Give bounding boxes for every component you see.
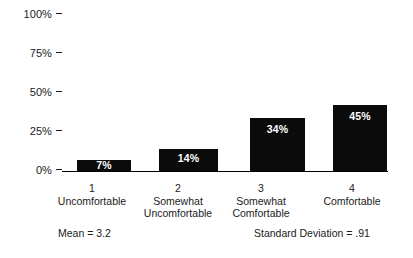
y-axis-tick-label: 0% <box>36 164 52 176</box>
plot-area: 7% 14% 34% 45% <box>62 0 392 180</box>
x-axis-category-number: 3 <box>223 182 299 195</box>
bar-value-label-2: 14% <box>159 152 218 164</box>
y-axis-tick-label: 50% <box>30 86 52 98</box>
bar-2[interactable]: 14% <box>159 149 218 171</box>
y-axis-tick-label: 75% <box>30 47 52 59</box>
bar-column-1[interactable]: 7% <box>77 160 131 171</box>
x-axis-baseline <box>62 171 388 173</box>
bar-value-label-3: 34% <box>250 123 305 135</box>
x-axis-category-number: 4 <box>311 182 393 195</box>
bar-3[interactable]: 34% <box>250 118 305 171</box>
x-axis-category-4: 4 Comfortable <box>311 182 393 207</box>
x-axis-category-text: Uncomfortable <box>49 195 135 208</box>
y-axis-tick-label: 25% <box>30 125 52 137</box>
y-axis-tick-50: 50% <box>30 85 62 98</box>
x-axis-category-number: 2 <box>139 182 217 195</box>
x-axis-category-text: Somewhat Uncomfortable <box>139 195 217 220</box>
x-axis-category-2: 2 Somewhat Uncomfortable <box>139 182 217 220</box>
x-axis-category-3: 3 Somewhat Comfortable <box>223 182 299 220</box>
y-axis-tick-0: 0% <box>36 163 62 176</box>
bar-value-label-1: 7% <box>77 159 131 171</box>
y-axis-tick-25: 25% <box>30 124 62 137</box>
bar-column-4[interactable]: 45% <box>333 105 387 171</box>
bar-column-2[interactable]: 14% <box>159 149 218 171</box>
x-axis-category-text: Comfortable <box>311 195 393 208</box>
y-axis-tick-label: 100% <box>23 8 52 20</box>
bar-value-label-4: 45% <box>333 110 387 122</box>
x-axis-category-text: Somewhat Comfortable <box>223 195 299 220</box>
y-axis-tick-75: 75% <box>30 46 62 59</box>
bar-chart: 100% 75% 50% 25% 0% 7% 14% <box>0 0 413 258</box>
y-axis: 100% 75% 50% 25% 0% <box>0 0 62 180</box>
x-axis-category-1: 1 Uncomfortable <box>49 182 135 207</box>
x-axis-category-number: 1 <box>49 182 135 195</box>
mean-annotation: Mean = 3.2 <box>58 227 111 239</box>
bar-1[interactable]: 7% <box>77 160 131 171</box>
standard-deviation-annotation: Standard Deviation = .91 <box>254 227 370 239</box>
bar-4[interactable]: 45% <box>333 105 387 171</box>
y-axis-tick-100: 100% <box>23 7 62 20</box>
bar-column-3[interactable]: 34% <box>250 118 305 171</box>
